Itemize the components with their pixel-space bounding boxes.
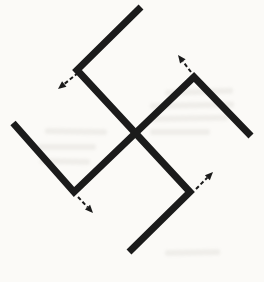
se-rotation-arrow-shaft [196,178,207,189]
ne-rotation-arrow-shaft [183,61,191,72]
page-showthrough-smudge [150,115,228,122]
rotation-symbol-diagram [0,0,264,282]
arm-left-hook-sw-ne-diagonal-right-hook [13,77,251,192]
sw-rotation-arrow-shaft [78,197,88,207]
ne-rotation-arrow-head [178,55,186,63]
sw-rotation-arrow [78,197,93,213]
sw-rotation-arrow-head [85,205,93,213]
page-showthrough-smudge [38,144,96,150]
page-showthrough-smudge [45,128,107,135]
nw-rotation-arrow [58,73,78,89]
ne-rotation-arrow [178,55,191,72]
scanned-page-figure [0,0,264,282]
page-showthrough-smudge [165,249,220,256]
nw-rotation-arrow-shaft [64,73,78,84]
se-rotation-arrow [196,172,213,189]
page-showthrough-smudge [150,129,210,135]
